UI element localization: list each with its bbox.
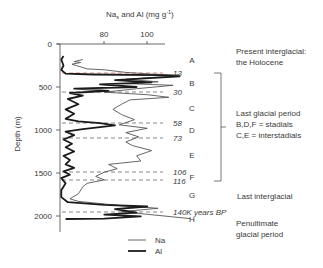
boundary-58-label: 58 bbox=[173, 119, 182, 128]
stage-d: D bbox=[189, 126, 195, 135]
stage-g: G bbox=[189, 191, 195, 200]
stage-a: A bbox=[189, 56, 195, 65]
period-last-glacial: Last glacial period B,D,F = stadials C,E… bbox=[236, 108, 301, 141]
legend-na-label: Na bbox=[155, 236, 166, 245]
y-tick-label-0: 0 bbox=[48, 40, 53, 49]
stage-c: C bbox=[189, 104, 195, 113]
period-penultimate-glacial: Penultimate glacial period bbox=[236, 218, 283, 240]
boundary-106-label: 106 bbox=[173, 168, 187, 177]
boundary-116-label: 116 bbox=[173, 177, 186, 186]
y-tick-label-1000: 1000 bbox=[34, 126, 52, 135]
stage-e: E bbox=[189, 151, 194, 160]
stage-h: H bbox=[189, 215, 195, 224]
boundary-30-label: 30 bbox=[173, 88, 182, 97]
stage-b: B bbox=[189, 79, 194, 88]
x-axis-title: Nas and Al (mg g-1) bbox=[106, 9, 174, 20]
period-last-interglacial: Last interglacial bbox=[237, 191, 293, 202]
period-last-glacial-line2: B,D,F = stadials bbox=[236, 119, 301, 130]
y-tick-label-500: 500 bbox=[39, 83, 53, 92]
x-tick-label-80: 80 bbox=[100, 30, 109, 39]
al-series-line bbox=[61, 56, 179, 219]
period-penultimate-line1: Penultimate bbox=[236, 218, 283, 229]
y-tick-label-1500: 1500 bbox=[34, 169, 52, 178]
stage-labels: A B C D E F G H bbox=[189, 56, 195, 224]
boundary-13-label: 13 bbox=[173, 69, 182, 78]
y-axis-title: Depth (m) bbox=[13, 116, 22, 152]
y-tick-label-2000: 2000 bbox=[34, 212, 52, 221]
period-last-glacial-line3: C,E = interstadials bbox=[236, 130, 301, 141]
period-holocene: Present interglacial: the Holocene bbox=[236, 46, 306, 68]
period-last-glacial-line1: Last glacial period bbox=[236, 108, 301, 119]
period-penultimate-line2: glacial period bbox=[236, 229, 283, 240]
boundary-140k-label: 140K years BP bbox=[173, 208, 227, 217]
stage-f: F bbox=[190, 173, 195, 182]
boundary-73-label: 73 bbox=[173, 134, 182, 143]
period-holocene-line2: the Holocene bbox=[236, 57, 306, 68]
period-holocene-line1: Present interglacial: bbox=[236, 46, 306, 57]
x-tick-label-100: 100 bbox=[140, 30, 154, 39]
glacial-bracket bbox=[214, 73, 221, 181]
legend-al-label: Al bbox=[155, 247, 162, 256]
y-ticks bbox=[56, 44, 60, 216]
